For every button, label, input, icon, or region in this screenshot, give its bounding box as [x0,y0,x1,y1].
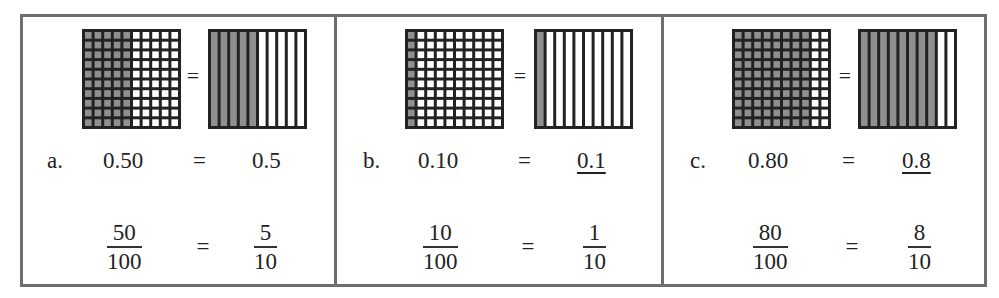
grid-svg [208,29,307,129]
denominator: 100 [753,248,788,274]
numerator: 50 [111,221,138,246]
decimal-right-answer: 0.1 [577,147,606,175]
grid-equals-sign: = [183,65,203,87]
grid-svg [858,29,957,129]
hundredths-grid [82,29,181,129]
tenths-grid [534,29,633,129]
panel-b: = b. 0.10 = 0.1 10 100 = 1 10 [337,17,661,284]
numerator: 10 [427,221,454,246]
denominator: 10 [583,248,606,274]
item-label: b. [363,147,380,175]
hundredths-grid [405,29,504,129]
item-label: c. [690,147,706,175]
denominator: 100 [423,248,458,274]
item-label: a. [47,147,63,175]
decimal-equals-sign: = [842,147,855,175]
tenths-grid [858,29,957,129]
tenths-grid [208,29,307,129]
fraction-equals-sign: = [842,233,862,261]
fraction-left: 50 100 [107,221,142,274]
grid-svg [405,29,504,129]
decimal-left: 0.10 [418,147,458,175]
denominator: 10 [254,248,277,274]
fraction-right: 8 10 [908,221,931,274]
panel-c: = c. 0.80 = 0.8 80 100 = 8 10 [664,17,984,284]
fraction-right: 1 10 [583,221,606,274]
grid-equals-sign: = [510,65,530,87]
fraction-equals-sign: = [518,233,538,261]
numerator: 80 [757,221,784,246]
denominator: 100 [107,248,142,274]
decimal-equals-sign: = [518,147,531,175]
grid-svg [82,29,181,129]
hundredths-grid [732,29,831,129]
fraction-right: 5 10 [254,221,277,274]
numerator: 8 [912,221,928,246]
panel-a: = a. 0.50 = 0.5 50 100 = 5 10 [23,17,334,284]
grid-equals-sign: = [835,65,855,87]
fraction-equals-sign: = [193,233,213,261]
decimal-left: 0.80 [748,147,788,175]
decimal-left: 0.50 [103,147,143,175]
grid-svg [534,29,633,129]
decimal-equals-sign: = [193,147,206,175]
denominator: 10 [908,248,931,274]
fraction-left: 80 100 [753,221,788,274]
numerator: 1 [587,221,603,246]
decimal-right-answer: 0.8 [902,147,931,175]
grid-svg [732,29,831,129]
numerator: 5 [258,221,274,246]
fraction-left: 10 100 [423,221,458,274]
decimal-right: 0.5 [252,147,281,175]
